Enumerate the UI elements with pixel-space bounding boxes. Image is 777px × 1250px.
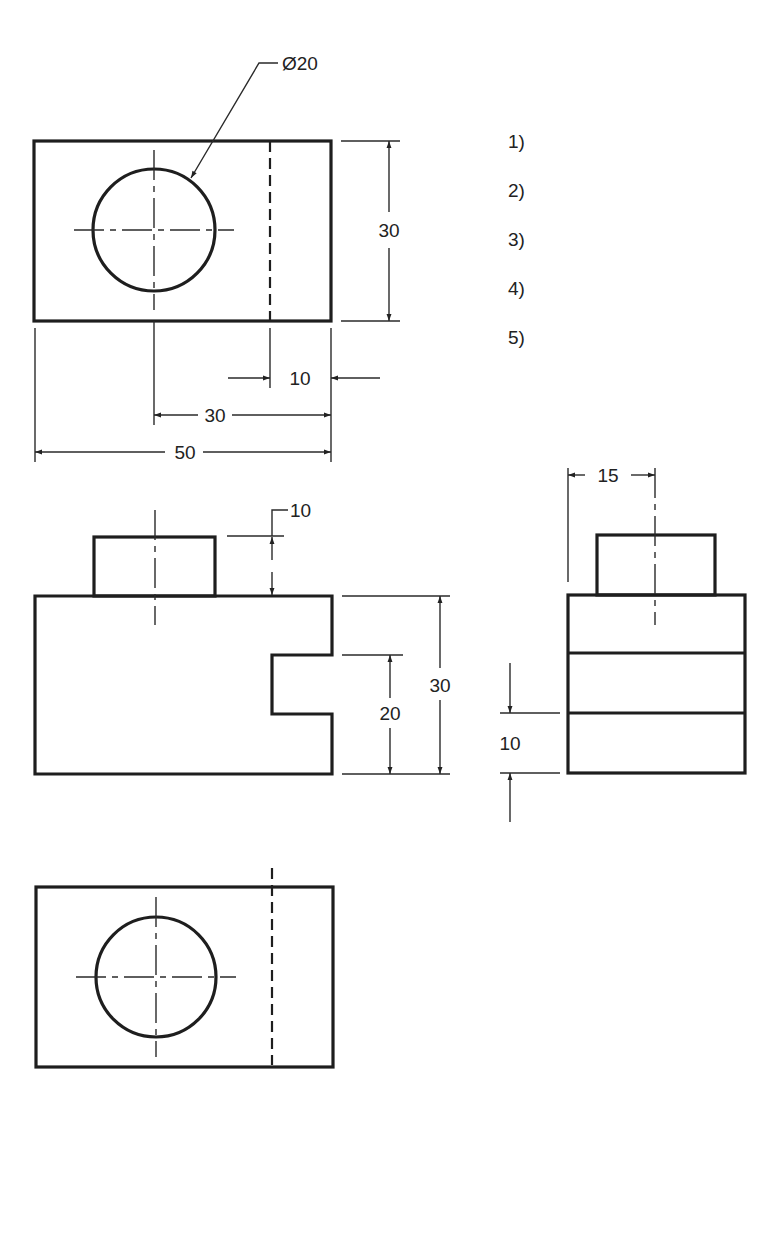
top-view: Ø20 30 10 30 50 <box>34 53 400 463</box>
bottom-view <box>36 868 333 1067</box>
front-view: 10 20 30 <box>35 500 451 774</box>
dim-top-height-30: 30 <box>378 220 399 241</box>
hole-leader <box>191 63 278 178</box>
question-item-3: 3) <box>508 229 525 250</box>
dim-side-layer-10: 10 <box>499 733 520 754</box>
front-body-outline <box>35 596 332 774</box>
dim-front-slot-20: 20 <box>379 703 400 724</box>
question-item-4: 4) <box>508 278 525 299</box>
technical-drawing: Ø20 30 10 30 50 1) 2) 3) 4) 5) <box>0 0 777 1250</box>
top-view-outline <box>34 141 331 321</box>
question-item-2: 2) <box>508 180 525 201</box>
side-boss <box>597 535 715 595</box>
dim-top-hole-30: 30 <box>204 405 225 426</box>
leader <box>272 510 288 536</box>
dim-side-offset-15: 15 <box>597 465 618 486</box>
dim-front-boss-10: 10 <box>290 500 311 521</box>
dim-top-offset-10: 10 <box>289 368 310 389</box>
dim-top-width-50: 50 <box>174 442 195 463</box>
question-list: 1) 2) 3) 4) 5) <box>508 131 525 348</box>
question-item-5: 5) <box>508 327 525 348</box>
question-item-1: 1) <box>508 131 525 152</box>
side-body-outline <box>568 595 745 773</box>
hole-diameter-text: Ø20 <box>282 53 318 74</box>
dim-front-height-30: 30 <box>429 675 450 696</box>
side-view: 15 10 <box>499 465 745 822</box>
